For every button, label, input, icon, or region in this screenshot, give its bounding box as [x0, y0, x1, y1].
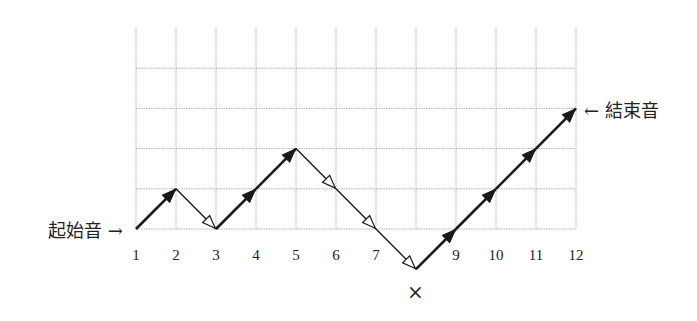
pitch-path-diagram	[0, 0, 697, 321]
x-tick-label: 4	[241, 247, 271, 264]
x-tick-label: 3	[201, 247, 231, 264]
x-tick-label: 12	[561, 247, 591, 264]
end-note-label: ← 結束音	[584, 96, 659, 122]
x-tick-label: 10	[481, 247, 511, 264]
x-tick-label: 2	[161, 247, 191, 264]
cross-mark: ×	[407, 280, 424, 304]
start-note-label: 起始音 →	[48, 216, 123, 242]
x-tick-label: 9	[441, 247, 471, 264]
x-tick-label: 1	[121, 247, 151, 264]
x-tick-label: 11	[521, 247, 551, 264]
x-tick-label: 6	[321, 247, 351, 264]
x-tick-label: 5	[281, 247, 311, 264]
x-tick-label: 7	[361, 247, 391, 264]
